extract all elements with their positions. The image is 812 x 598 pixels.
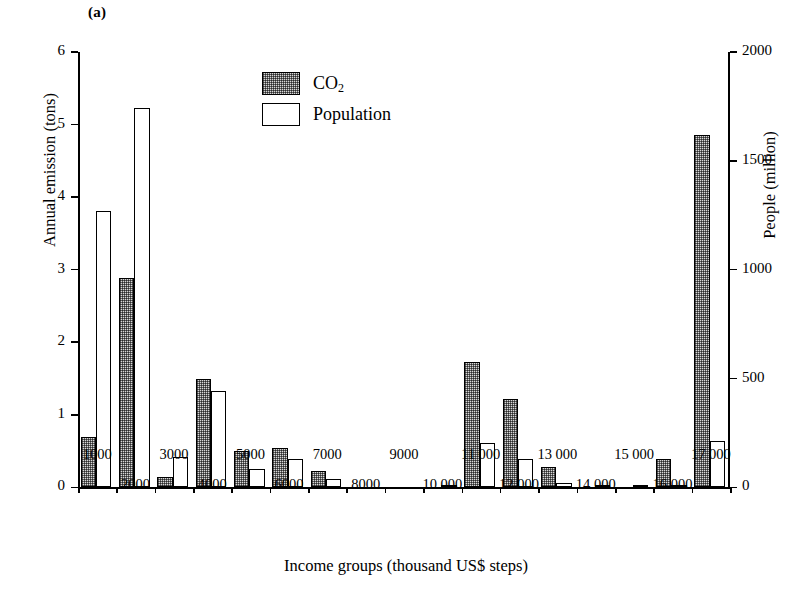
y-tick-left xyxy=(71,269,78,271)
x-tick-label: 7000 xyxy=(290,446,364,463)
legend-label-co2: CO2 xyxy=(313,73,344,94)
y-tick-label-right: 1000 xyxy=(742,260,802,277)
y-tick-label-left: 2 xyxy=(25,332,65,349)
y-tick-left xyxy=(71,487,78,489)
y-tick-label-right: 2000 xyxy=(742,42,802,59)
legend-swatch-population xyxy=(262,103,300,126)
bar-series-container xyxy=(78,52,730,487)
y-tick-label-right: 0 xyxy=(742,477,802,494)
x-tick-label: 13 000 xyxy=(520,446,594,463)
chart-legend: CO2 Population xyxy=(262,68,391,130)
x-axis-title: Income groups (thousand US$ steps) xyxy=(0,556,812,576)
y-tick-right xyxy=(730,160,737,162)
x-tick-label: 5000 xyxy=(214,446,288,463)
plot-area: 0123456 0500100015002000 xyxy=(78,52,730,489)
legend-swatch-co2 xyxy=(262,72,300,95)
y-tick-left xyxy=(71,341,78,343)
legend-item-co2: CO2 xyxy=(262,68,391,99)
y-tick-right xyxy=(730,51,737,53)
x-tick-label: 1000 xyxy=(60,446,134,463)
x-tick xyxy=(730,487,732,493)
y-tick-left xyxy=(71,51,78,53)
legend-label-population: Population xyxy=(313,104,391,125)
y-tick-left xyxy=(71,414,78,416)
y-tick-label-left: 0 xyxy=(25,477,65,494)
x-tick-label: 17 000 xyxy=(674,446,748,463)
bar-co2 xyxy=(694,135,709,487)
panel-label: (a) xyxy=(88,4,106,21)
x-tick-label: 2000 xyxy=(99,476,173,493)
y-tick-label-left: 1 xyxy=(25,405,65,422)
x-tick xyxy=(78,487,80,493)
x-tick-label: 16 000 xyxy=(635,476,709,493)
x-tick-label: 6000 xyxy=(252,476,326,493)
y-tick-label-left: 6 xyxy=(25,42,65,59)
y-tick-label-left: 4 xyxy=(25,187,65,204)
x-tick-label: 10 000 xyxy=(405,476,479,493)
y-tick-right xyxy=(730,269,737,271)
x-tick-label: 3000 xyxy=(137,446,211,463)
bar-co2 xyxy=(196,379,211,488)
y-axis-right-title: People (million) xyxy=(760,45,780,325)
x-tick-label: 15 000 xyxy=(597,446,671,463)
y-tick-label-right: 500 xyxy=(742,369,802,386)
x-tick-label: 14 000 xyxy=(559,476,633,493)
bar-population xyxy=(134,108,149,488)
y-tick-label-right: 1500 xyxy=(742,151,802,168)
x-tick-label: 12 000 xyxy=(482,476,556,493)
x-tick-label: 9000 xyxy=(367,446,441,463)
x-tick-label: 4000 xyxy=(175,476,249,493)
y-tick-label-left: 5 xyxy=(25,115,65,132)
y-tick-left xyxy=(71,196,78,198)
bar-co2 xyxy=(464,362,479,488)
y-tick-left xyxy=(71,124,78,126)
figure-panel: (a) Annual emission (tons) People (milli… xyxy=(0,0,812,598)
legend-item-population: Population xyxy=(262,99,391,130)
x-tick-label: 8000 xyxy=(329,476,403,493)
x-tick-label: 11 000 xyxy=(444,446,518,463)
y-tick-label-left: 3 xyxy=(25,260,65,277)
bar-co2 xyxy=(503,399,518,488)
bar-population xyxy=(211,391,226,488)
y-tick-right xyxy=(730,378,737,380)
